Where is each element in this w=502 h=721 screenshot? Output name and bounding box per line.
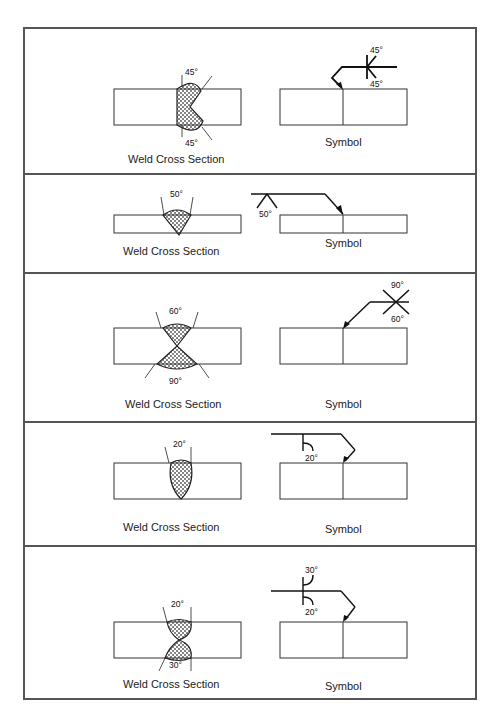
svg-text:Weld Cross Section: Weld Cross Section: [123, 245, 219, 257]
symbol: 50° Symbol: [251, 194, 407, 249]
panel-single-bevel: 20° Weld Cross Section 20° Symbol: [25, 421, 475, 545]
svg-text:Symbol: Symbol: [325, 398, 362, 410]
symbol: 20° Symbol: [271, 434, 407, 535]
symbol: 45° 45° Symbol: [280, 45, 407, 148]
cross-section: 20° 30° Weld Cross Section: [114, 599, 241, 690]
svg-text:90°: 90°: [391, 280, 404, 290]
svg-text:90°: 90°: [169, 376, 182, 386]
cross-section: 60° 90° Weld Cross Section: [114, 306, 241, 410]
svg-text:Weld Cross Section: Weld Cross Section: [123, 678, 219, 690]
panel-double-bevel: 45° 45° Weld Cross Section 45° 45° Symbo…: [25, 29, 475, 173]
symbol: 30° 20° Symbol: [271, 565, 407, 692]
panel-4-drawing: 20° Weld Cross Section 20° Symbol: [25, 423, 475, 547]
panel-2-drawing: 50° Weld Cross Section 50° Symbol: [25, 175, 475, 274]
cross-section: 45° 45° Weld Cross Section: [114, 67, 241, 165]
svg-text:20°: 20°: [173, 439, 186, 449]
svg-text:60°: 60°: [169, 306, 182, 316]
svg-text:50°: 50°: [259, 209, 272, 219]
svg-text:30°: 30°: [305, 565, 318, 575]
panel-1-drawing: 45° 45° Weld Cross Section 45° 45° Symbo…: [25, 29, 475, 173]
cross-section: 20° Weld Cross Section: [114, 439, 241, 533]
symbol: 90° 60° Symbol: [280, 280, 409, 410]
svg-text:60°: 60°: [391, 314, 404, 324]
cross-section: 50° Weld Cross Section: [114, 189, 241, 257]
panel-3-drawing: 60° 90° Weld Cross Section 90° 60° Symbo…: [25, 274, 475, 423]
svg-text:Weld Cross Section: Weld Cross Section: [123, 521, 219, 533]
svg-text:45°: 45°: [185, 138, 198, 148]
panel-5-drawing: 20° 30° Weld Cross Section 30° 20° Symbo…: [25, 547, 475, 702]
panel-double-j: 20° 30° Weld Cross Section 30° 20° Symbo…: [25, 545, 475, 700]
svg-text:20°: 20°: [171, 599, 184, 609]
weld-symbol-chart: 45° 45° Weld Cross Section 45° 45° Symbo…: [23, 27, 477, 700]
svg-text:Weld Cross Section: Weld Cross Section: [128, 153, 224, 165]
svg-text:Symbol: Symbol: [325, 523, 362, 535]
svg-text:50°: 50°: [170, 189, 183, 199]
svg-text:20°: 20°: [305, 607, 318, 617]
svg-text:45°: 45°: [370, 79, 383, 89]
svg-text:20°: 20°: [305, 453, 318, 463]
svg-text:45°: 45°: [185, 67, 198, 77]
svg-text:Weld Cross Section: Weld Cross Section: [125, 398, 221, 410]
svg-text:Symbol: Symbol: [325, 136, 362, 148]
svg-text:Symbol: Symbol: [325, 237, 362, 249]
svg-text:30°: 30°: [169, 660, 182, 670]
svg-text:45°: 45°: [370, 45, 383, 55]
panel-double-v: 60° 90° Weld Cross Section 90° 60° Symbo…: [25, 272, 475, 421]
svg-text:Symbol: Symbol: [325, 680, 362, 692]
panel-single-v: 50° Weld Cross Section 50° Symbol: [25, 173, 475, 272]
